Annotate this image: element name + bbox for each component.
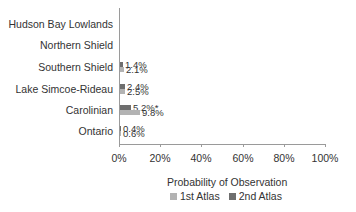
legend-swatch-1st-atlas	[170, 193, 177, 200]
bar-chart: Hudson Bay LowlandsNorthern ShieldSouthe…	[0, 0, 356, 212]
x-tick	[119, 144, 120, 147]
value-label: 2.1%	[126, 65, 148, 74]
legend-label-1st-atlas: 1st Atlas	[180, 190, 220, 202]
x-tick	[243, 144, 244, 147]
category-label: Carolinian	[66, 104, 113, 116]
x-tick-label: 0%	[111, 152, 126, 164]
x-axis-line	[119, 144, 325, 145]
x-tick	[160, 144, 161, 147]
y-axis-line	[119, 8, 120, 145]
value-label: 9.8%	[142, 108, 164, 117]
x-tick-label: 100%	[312, 152, 339, 164]
bar-1st-atlas	[120, 110, 140, 115]
bar-1st-atlas	[120, 131, 121, 136]
x-tick	[325, 144, 326, 147]
x-axis-title: Probability of Observation	[167, 176, 287, 188]
category-label: Southern Shield	[38, 61, 113, 73]
category-label: Ontario	[79, 125, 113, 137]
x-tick	[201, 144, 202, 147]
value-label: 0.6%	[123, 129, 145, 138]
category-label: Lake Simcoe-Rideau	[16, 83, 113, 95]
x-tick-label: 20%	[149, 152, 170, 164]
x-tick-label: 40%	[190, 152, 211, 164]
category-label: Northern Shield	[40, 39, 113, 51]
legend-swatch-2nd-atlas	[229, 193, 236, 200]
category-label: Hudson Bay Lowlands	[9, 18, 113, 30]
x-tick-label: 80%	[273, 152, 294, 164]
x-tick	[284, 144, 285, 147]
bar-1st-atlas	[120, 67, 124, 72]
bar-1st-atlas	[120, 89, 125, 94]
value-label: 2.5%	[127, 87, 149, 96]
legend: 1st Atlas 2nd Atlas	[170, 190, 282, 202]
x-tick-label: 60%	[232, 152, 253, 164]
legend-label-2nd-atlas: 2nd Atlas	[239, 190, 282, 202]
